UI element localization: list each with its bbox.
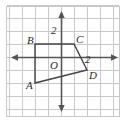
figure-border — [7, 7, 120, 117]
vertex-label-c: C — [76, 34, 83, 45]
vertex-label-d: D — [89, 70, 97, 81]
coordinate-plane-canvas — [0, 0, 126, 123]
origin-label-o: O — [50, 60, 58, 71]
vertex-label-a: A — [26, 80, 33, 91]
coordinate-plane-figure: A B C D O 2 2 — [0, 0, 126, 123]
y-axis-tick-label-2: 2 — [51, 25, 57, 36]
vertex-label-b: B — [27, 35, 34, 46]
x-axis-tick-label-2: 2 — [85, 54, 91, 65]
